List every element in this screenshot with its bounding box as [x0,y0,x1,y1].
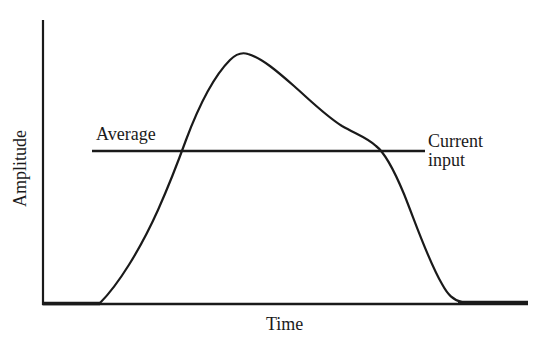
y-axis-label: Amplitude [10,143,30,207]
x-axis-label: Time [266,314,303,334]
current-input-curve [100,53,462,303]
average-label: Average [96,124,156,144]
current-input-label: Current input [428,132,483,170]
current-input-label-line2: input [428,151,483,170]
current-input-label-line1: Current [428,132,483,151]
pulse-diagram [0,0,551,342]
